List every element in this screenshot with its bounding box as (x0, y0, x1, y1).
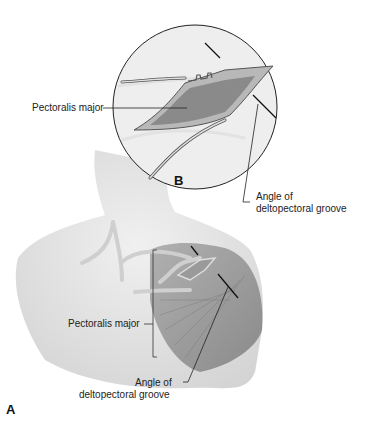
label-groove-b-line2: deltopectoral groove (256, 203, 347, 214)
panel-label-b: B (174, 173, 183, 188)
label-pectoralis-a: Pectoralis major (68, 318, 140, 329)
label-groove-a-line1: Angle of (135, 377, 172, 388)
label-groove-a-line2: deltopectoral groove (79, 389, 170, 400)
label-groove-b-line1: Angle of (256, 191, 293, 202)
panel-label-a: A (6, 402, 15, 417)
label-pectoralis-b: Pectoralis major (32, 102, 104, 113)
